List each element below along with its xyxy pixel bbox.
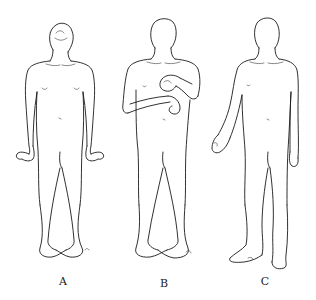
figure-c-drawing bbox=[212, 18, 298, 269]
figure-a-drawing bbox=[16, 23, 103, 257]
figure-b-drawing bbox=[123, 19, 200, 258]
figure-label-c: C bbox=[261, 276, 269, 287]
figure-label-b: B bbox=[160, 278, 168, 289]
figures-illustration bbox=[0, 0, 316, 300]
figure-canvas: A B C bbox=[0, 0, 316, 300]
figure-label-a: A bbox=[59, 276, 67, 287]
